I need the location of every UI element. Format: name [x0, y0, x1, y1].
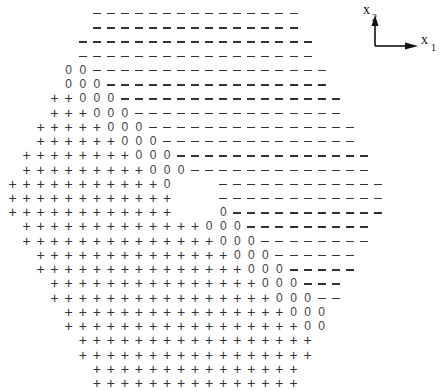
minus-symbol — [301, 276, 315, 290]
minus-symbol — [343, 177, 357, 191]
plus-symbol: + — [146, 262, 160, 276]
minus-symbol — [216, 49, 230, 63]
plus-symbol: + — [20, 163, 34, 177]
plus-symbol: + — [174, 362, 188, 376]
minus-symbol — [258, 20, 272, 34]
plus-symbol: + — [146, 177, 160, 191]
plus-symbol: + — [160, 248, 174, 262]
plus-symbol: + — [174, 291, 188, 305]
plus-symbol: + — [104, 376, 118, 390]
minus-symbol — [301, 163, 315, 177]
plus-symbol: + — [258, 319, 272, 333]
plus-symbol: + — [104, 177, 118, 191]
minus-symbol — [301, 219, 315, 233]
zero-symbol: 0 — [76, 91, 90, 105]
plus-symbol: + — [34, 191, 48, 205]
plus-symbol: + — [118, 163, 132, 177]
minus-symbol — [315, 234, 329, 248]
minus-symbol — [329, 276, 343, 290]
minus-symbol — [230, 49, 244, 63]
minus-symbol — [315, 120, 329, 134]
zero-symbol: 0 — [315, 319, 329, 333]
minus-symbol — [244, 163, 258, 177]
minus-symbol — [301, 248, 315, 262]
minus-symbol — [146, 106, 160, 120]
plus-symbol: + — [48, 276, 62, 290]
zero-symbol: 0 — [146, 163, 160, 177]
minus-symbol — [244, 106, 258, 120]
plus-symbol: + — [48, 219, 62, 233]
plus-symbol: + — [287, 376, 301, 390]
minus-symbol — [118, 34, 132, 48]
minus-symbol — [146, 20, 160, 34]
plus-symbol: + — [118, 291, 132, 305]
minus-symbol — [104, 6, 118, 20]
plus-symbol: + — [146, 362, 160, 376]
plus-symbol: + — [188, 248, 202, 262]
minus-symbol — [315, 91, 329, 105]
plus-symbol: + — [146, 234, 160, 248]
plus-symbol: + — [62, 205, 76, 219]
minus-symbol — [287, 77, 301, 91]
plus-symbol: + — [258, 305, 272, 319]
zero-symbol: 0 — [132, 120, 146, 134]
zero-symbol: 0 — [104, 106, 118, 120]
minus-symbol — [188, 120, 202, 134]
minus-symbol — [371, 191, 385, 205]
minus-symbol — [329, 120, 343, 134]
plus-symbol: + — [160, 333, 174, 347]
plus-symbol: + — [230, 291, 244, 305]
minus-symbol — [174, 91, 188, 105]
plus-symbol: + — [202, 348, 216, 362]
plus-symbol: + — [90, 148, 104, 162]
plus-symbol: + — [230, 276, 244, 290]
minus-symbol — [160, 134, 174, 148]
plus-symbol: + — [118, 191, 132, 205]
minus-symbol — [146, 6, 160, 20]
plus-symbol: + — [104, 305, 118, 319]
plus-symbol: + — [90, 219, 104, 233]
plus-symbol: + — [76, 248, 90, 262]
plus-symbol: + — [202, 305, 216, 319]
zero-symbol: 0 — [258, 276, 272, 290]
minus-symbol — [258, 49, 272, 63]
plus-symbol: + — [188, 333, 202, 347]
plus-symbol: + — [230, 305, 244, 319]
minus-symbol — [146, 120, 160, 134]
minus-symbol — [132, 63, 146, 77]
plus-symbol: + — [132, 305, 146, 319]
plus-symbol: + — [6, 177, 20, 191]
plus-symbol: + — [244, 348, 258, 362]
plus-symbol: + — [216, 333, 230, 347]
minus-symbol — [146, 34, 160, 48]
plus-symbol: + — [62, 148, 76, 162]
plus-symbol: + — [76, 276, 90, 290]
plus-symbol: + — [202, 276, 216, 290]
minus-symbol — [188, 134, 202, 148]
zero-symbol: 0 — [216, 234, 230, 248]
minus-symbol — [216, 106, 230, 120]
plus-symbol: + — [132, 262, 146, 276]
minus-symbol — [343, 191, 357, 205]
zero-symbol: 0 — [118, 106, 132, 120]
minus-symbol — [258, 191, 272, 205]
minus-symbol — [315, 262, 329, 276]
zero-symbol: 0 — [216, 219, 230, 233]
minus-symbol — [287, 248, 301, 262]
plus-symbol: + — [48, 291, 62, 305]
minus-symbol — [118, 63, 132, 77]
minus-symbol — [174, 49, 188, 63]
minus-symbol — [287, 234, 301, 248]
plus-symbol: + — [90, 177, 104, 191]
minus-symbol — [160, 20, 174, 34]
minus-symbol — [216, 191, 230, 205]
minus-symbol — [230, 191, 244, 205]
minus-symbol — [230, 163, 244, 177]
plus-symbol: + — [216, 262, 230, 276]
plus-symbol: + — [258, 291, 272, 305]
plus-symbol: + — [146, 305, 160, 319]
minus-symbol — [301, 34, 315, 48]
minus-symbol — [244, 205, 258, 219]
minus-symbol — [104, 77, 118, 91]
plus-symbol: + — [90, 134, 104, 148]
